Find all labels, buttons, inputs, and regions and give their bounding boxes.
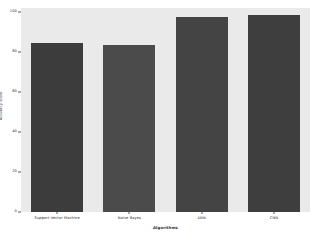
y-tick-mark	[18, 132, 21, 133]
x-tick-mark	[129, 212, 130, 214]
x-tick-label: ANN	[198, 217, 206, 221]
y-tick-label: 80	[12, 50, 17, 54]
plot-area	[21, 8, 310, 212]
y-tick-mark	[18, 52, 21, 53]
y-tick-mark	[18, 12, 21, 13]
y-tick-label: 100	[10, 10, 17, 14]
y-axis: Accuracy score 020406080100	[0, 0, 21, 212]
x-tick-label: Support Vector Machine	[35, 217, 80, 221]
y-tick-label: 60	[12, 90, 17, 94]
x-axis: Algorithms Support Vector MachineNaive B…	[21, 212, 310, 244]
x-tick-label: CNN	[270, 217, 278, 221]
y-tick-mark	[18, 172, 21, 173]
bar	[103, 45, 155, 212]
bars-layer	[21, 8, 310, 212]
x-tick-mark	[273, 212, 274, 214]
bar	[176, 17, 228, 212]
bar-chart-figure: Accuracy score 020406080100 Algorithms S…	[0, 0, 325, 244]
y-tick-label: 20	[12, 170, 17, 174]
bar	[248, 15, 300, 212]
bar	[31, 43, 83, 212]
x-tick-label: Naive Bayes	[118, 217, 141, 221]
y-axis-title: Accuracy score	[0, 92, 4, 121]
x-axis-title: Algorithms	[153, 226, 178, 230]
y-tick-label: 40	[12, 130, 17, 134]
x-tick-mark	[57, 212, 58, 214]
x-tick-mark	[201, 212, 202, 214]
y-tick-mark	[18, 92, 21, 93]
y-tick-label: 0	[15, 210, 17, 214]
